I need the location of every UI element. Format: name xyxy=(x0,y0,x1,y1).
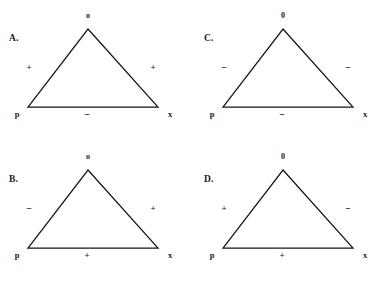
vertex-label-right-b: x xyxy=(163,251,177,260)
panel-b: B. o p x − + + xyxy=(0,141,195,281)
panel-letter-d: D. xyxy=(204,175,214,185)
vertex-label-left-c: p xyxy=(205,110,219,119)
edge-sign-right-c: − xyxy=(341,63,355,73)
edge-sign-right-a: + xyxy=(146,63,160,72)
vertex-label-top-a: o xyxy=(78,12,98,20)
vertex-label-left-d: p xyxy=(205,251,219,260)
edge-sign-bottom-c: − xyxy=(275,110,289,120)
edge-sign-bottom-a: − xyxy=(80,110,94,120)
vertex-label-right-c: x xyxy=(358,110,372,119)
panel-d: D. 0 p x + − + xyxy=(195,141,390,281)
panel-a: A. o p x + + − xyxy=(0,0,195,140)
edge-sign-right-d: − xyxy=(341,204,355,214)
edge-sign-right-b: + xyxy=(146,204,160,213)
panel-letter-c: C. xyxy=(204,34,214,44)
panel-letter-a: A. xyxy=(9,34,19,44)
edge-sign-bottom-b: + xyxy=(80,251,94,260)
edge-sign-left-b: − xyxy=(22,204,36,214)
triangle-figure-canvas: A. o p x + + − C. 0 p x − − − B. o p x −… xyxy=(0,0,390,281)
vertex-label-top-d: 0 xyxy=(273,153,293,161)
edge-sign-left-d: + xyxy=(217,204,231,213)
edge-sign-bottom-d: + xyxy=(275,251,289,260)
panel-letter-b: B. xyxy=(9,175,18,185)
edge-sign-left-c: − xyxy=(217,63,231,73)
panel-c: C. 0 p x − − − xyxy=(195,0,390,140)
vertex-label-right-a: x xyxy=(163,110,177,119)
vertex-label-left-a: p xyxy=(10,110,24,119)
vertex-label-top-c: 0 xyxy=(273,12,293,20)
vertex-label-left-b: p xyxy=(10,251,24,260)
vertex-label-right-d: x xyxy=(358,251,372,260)
edge-sign-left-a: + xyxy=(22,63,36,72)
vertex-label-top-b: o xyxy=(78,153,98,161)
